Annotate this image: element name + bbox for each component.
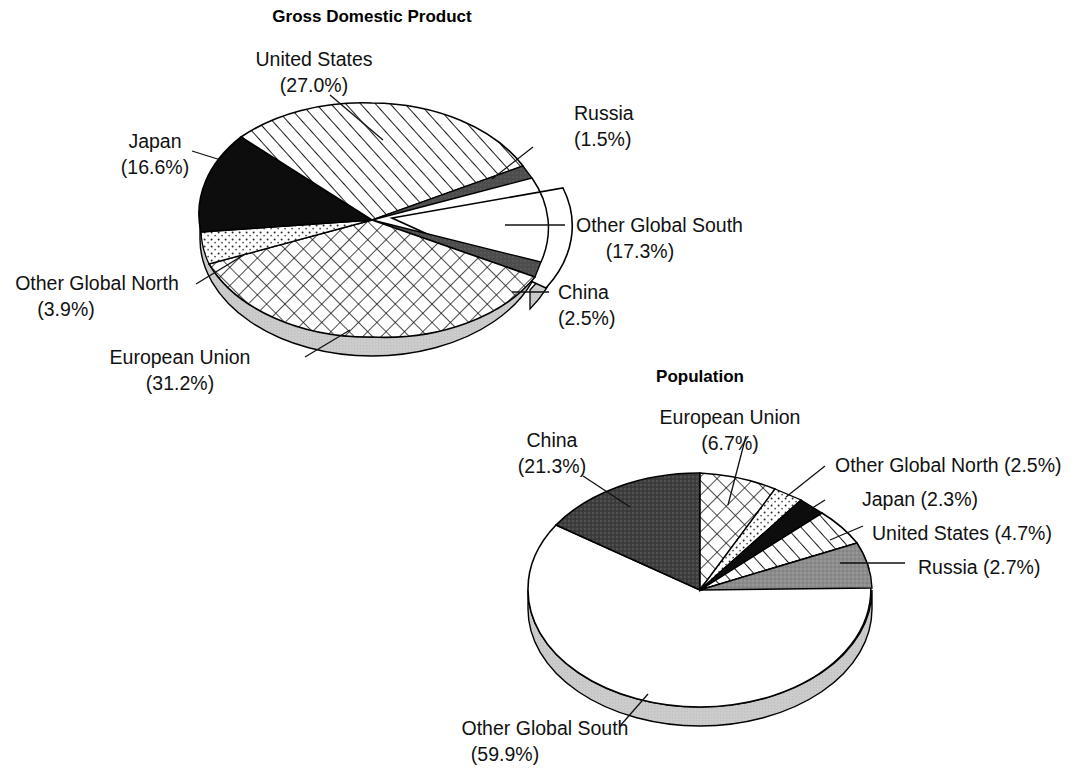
gdp-chart-title: Gross Domestic Product (272, 7, 472, 26)
population-label-european-union-name: European Union (660, 406, 801, 428)
gdp-label-russia-value: (1.5%) (574, 128, 631, 150)
population-label-china-name: China (527, 429, 578, 451)
gdp-label-other-global-north-value: (3.9%) (37, 298, 94, 320)
population-label-other-global-south-value: (59.9%) (471, 743, 539, 765)
gdp-label-united-states-name: United States (255, 48, 372, 70)
figure-root: Gross Domestic Product (0, 0, 1078, 775)
population-label-other-global-north: Other Global North (2.5%) (835, 454, 1062, 476)
population-label-european-union-value: (6.7%) (701, 432, 758, 454)
gdp-label-japan-value: (16.6%) (121, 156, 189, 178)
gdp-label-other-global-north-name: Other Global North (15, 272, 179, 294)
gdp-label-china-value: (2.5%) (558, 307, 615, 329)
gdp-label-japan-name: Japan (128, 130, 181, 152)
population-leader-other-global-north (786, 466, 825, 497)
population-label-china-value: (21.3%) (518, 455, 586, 477)
gdp-label-other-global-south-value: (17.3%) (606, 240, 674, 262)
population-chart-title: Population (656, 367, 744, 386)
population-label-japan: Japan (2.3%) (862, 488, 978, 510)
pie-charts-svg: Gross Domestic Product (0, 0, 1078, 775)
population-label-russia: Russia (2.7%) (918, 556, 1040, 578)
gdp-label-other-global-south-name: Other Global South (576, 214, 743, 236)
gdp-label-china-name: China (558, 281, 609, 303)
chart-population: Population (462, 367, 1062, 765)
gdp-label-russia-name: Russia (574, 102, 634, 124)
chart-gdp: Gross Domestic Product (15, 7, 743, 394)
gdp-label-european-union-name: European Union (110, 346, 251, 368)
population-label-other-global-south-name: Other Global South (462, 717, 629, 739)
gdp-label-united-states-value: (27.0%) (280, 74, 348, 96)
gdp-label-european-union-value: (31.2%) (146, 372, 214, 394)
population-label-united-states: United States (4.7%) (872, 522, 1052, 544)
